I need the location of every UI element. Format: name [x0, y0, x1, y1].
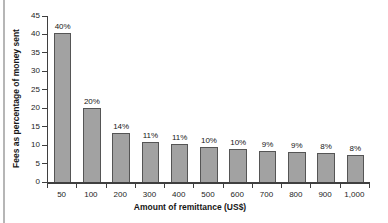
y-axis-tick-label: 0	[18, 177, 40, 187]
bars-container: 40%20%14%11%11%10%10%9%9%8%8%	[48, 16, 370, 182]
y-axis-tick	[42, 52, 47, 53]
y-axis-tick	[42, 71, 47, 72]
y-axis-tick-label: 35	[18, 48, 40, 58]
bar-slot: 11%	[136, 16, 165, 182]
y-axis-tick-label: 30	[18, 66, 40, 76]
y-axis-tick	[42, 34, 47, 35]
y-axis-title: Fees as percentage of money sent	[11, 19, 22, 179]
y-axis-tick	[42, 145, 47, 146]
bar	[112, 133, 130, 182]
bar-slot: 14%	[107, 16, 136, 182]
bar-value-label: 8%	[350, 144, 362, 153]
bar	[83, 108, 101, 182]
bar-value-label: 11%	[143, 131, 158, 140]
bar-slot: 11%	[165, 16, 194, 182]
bar-slot: 10%	[224, 16, 253, 182]
x-axis-tick	[106, 184, 107, 188]
bar	[347, 155, 365, 182]
bar-slot: 40%	[48, 16, 77, 182]
y-axis-tick	[42, 16, 47, 17]
bar-slot: 20%	[77, 16, 106, 182]
bar	[171, 144, 189, 182]
x-axis-tick	[252, 184, 253, 188]
plot-area: 40%20%14%11%11%10%10%9%9%8%8%	[47, 16, 370, 184]
y-axis-tick	[42, 89, 47, 90]
x-axis-tick	[223, 184, 224, 188]
x-axis-tick	[369, 184, 370, 188]
x-axis-tick-label: 1,000	[337, 190, 371, 200]
y-axis-tick-label: 45	[18, 11, 40, 21]
bar	[229, 149, 247, 182]
bar-value-label: 14%	[113, 122, 129, 131]
bar-value-label: 40%	[55, 22, 71, 31]
bar	[142, 142, 160, 182]
y-axis-tick-label: 20	[18, 103, 40, 113]
x-axis-tick	[193, 184, 194, 188]
x-axis-tick	[164, 184, 165, 188]
bar	[288, 152, 306, 182]
y-axis-tick	[42, 182, 47, 183]
bar-value-label: 11%	[172, 133, 187, 142]
bar-value-label: 8%	[320, 142, 332, 151]
bar	[259, 151, 277, 182]
bar-slot: 9%	[282, 16, 311, 182]
bar-slot: 9%	[253, 16, 282, 182]
y-axis-tick-label: 15	[18, 122, 40, 132]
y-axis-tick	[42, 126, 47, 127]
x-axis-tick	[281, 184, 282, 188]
y-axis-tick-label: 5	[18, 159, 40, 169]
bar	[317, 153, 335, 182]
x-axis-tick	[76, 184, 77, 188]
x-axis-tick	[310, 184, 311, 188]
y-axis-tick	[42, 163, 47, 164]
page-edge-line	[3, 0, 5, 223]
bar-value-label: 9%	[291, 141, 303, 150]
bar-value-label: 9%	[262, 140, 274, 149]
x-axis-title: Amount of remittance (US$)	[29, 202, 351, 212]
bar-value-label: 10%	[201, 136, 217, 145]
bar-value-label: 20%	[84, 97, 100, 106]
bar-slot: 10%	[194, 16, 223, 182]
bar	[54, 33, 72, 182]
x-axis-tick	[47, 184, 48, 188]
y-axis-tick-label: 40	[18, 29, 40, 39]
bar-slot: 8%	[341, 16, 370, 182]
y-axis-tick-label: 10	[18, 140, 40, 150]
bar-slot: 8%	[311, 16, 340, 182]
y-axis-tick	[42, 108, 47, 109]
x-axis-tick	[340, 184, 341, 188]
bar-value-label: 10%	[230, 138, 246, 147]
x-axis-tick	[135, 184, 136, 188]
remittance-fees-bar-chart: Fees as percentage of money sent 40%20%1…	[0, 0, 388, 223]
y-axis-tick-label: 25	[18, 85, 40, 95]
bar	[200, 147, 218, 182]
